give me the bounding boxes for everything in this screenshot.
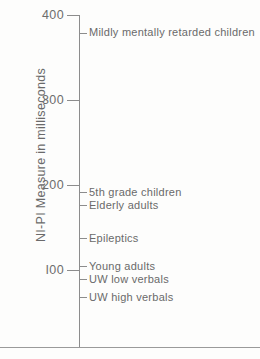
chart-canvas: NI-PI Measure in milliseconds 400 300 20… [0,0,260,359]
data-label-mildly-mentally-retarded-children: Mildly mentally retarded children [89,26,255,38]
y-tick-label-100: I00 [45,263,64,277]
y-axis-title: NI-PI Measure in milliseconds [34,35,48,275]
data-tick-uw-low-verbals [80,279,87,280]
y-tick-100 [67,270,80,271]
data-tick-uw-high-verbals [80,297,87,298]
y-tick-400 [67,15,80,16]
y-tick-label-400: 400 [42,8,64,22]
data-tick-elderly-adults [80,205,87,206]
y-tick-300 [67,100,80,101]
y-tick-label-200: 200 [42,178,64,192]
data-tick-mildly-mentally-retarded-children [80,33,87,34]
data-tick-young-adults [80,266,87,267]
data-label-epileptics: Epileptics [89,232,139,244]
y-tick-label-300: 300 [42,93,64,107]
data-label-uw-high-verbals: UW high verbals [89,291,173,303]
bottom-rule [0,347,260,348]
data-tick-5th-grade-children [80,192,87,193]
data-label-elderly-adults: Elderly adults [89,199,159,211]
data-label-young-adults: Young adults [89,260,155,272]
data-label-uw-low-verbals: UW low verbals [89,273,169,285]
data-tick-epileptics [80,238,87,239]
data-label-5th-grade-children: 5th grade children [89,186,182,198]
y-tick-200 [67,185,80,186]
